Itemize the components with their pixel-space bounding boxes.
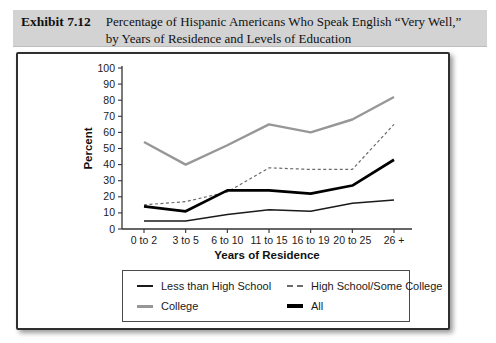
exhibit-title-line1: Percentage of Hispanic Americans Who Spe…: [106, 14, 462, 29]
chart-panel: 01020304050607080901000 to 23 to 56 to 1…: [16, 52, 450, 330]
y-tick-label: 100: [97, 62, 115, 74]
y-tick-label: 0: [109, 223, 115, 235]
x-tick-label: 0 to 2: [131, 234, 157, 246]
y-tick-label: 90: [103, 78, 115, 90]
page: Exhibit 7.12 Percentage of Hispanic Amer…: [0, 0, 496, 343]
y-tick-label: 10: [103, 206, 115, 218]
legend: Less than High SchoolHigh School/Some Co…: [122, 270, 410, 322]
y-tick-label: 40: [103, 158, 115, 170]
series-line-1: [144, 124, 394, 205]
legend-marker: [137, 285, 153, 287]
legend-label: College: [161, 300, 198, 312]
years-axis-label: Years of Residence: [214, 249, 319, 261]
x-tick-label: 16 to 19: [292, 234, 330, 246]
exhibit-title: Percentage of Hispanic Americans Who Spe…: [106, 14, 462, 47]
x-tick-label: 3 to 5: [173, 234, 199, 246]
legend-item: All: [287, 300, 442, 312]
exhibit-header: Exhibit 7.12 Percentage of Hispanic Amer…: [13, 10, 487, 47]
y-tick-label: 30: [103, 174, 115, 186]
legend-label: All: [311, 300, 323, 312]
y-tick-label: 60: [103, 126, 115, 138]
y-tick-label: 80: [103, 94, 115, 106]
x-tick-label: 6 to 10: [211, 234, 243, 246]
legend-label: High School/Some College: [311, 280, 442, 292]
x-tick-label: 20 to 25: [333, 234, 371, 246]
y-tick-label: 50: [103, 142, 115, 154]
legend-marker: [287, 304, 303, 308]
legend-item: Less than High School: [137, 280, 287, 292]
y-tick-label: 70: [103, 110, 115, 122]
series-line-2: [144, 97, 394, 165]
percent-axis-label: Percent: [82, 127, 94, 169]
x-tick-label: 11 to 15: [250, 234, 287, 246]
legend-marker: [287, 285, 303, 287]
legend-marker: [137, 305, 153, 308]
exhibit-title-line2: by Years of Residence and Levels of Educ…: [106, 31, 352, 46]
legend-item: College: [137, 300, 287, 312]
y-tick-label: 20: [103, 190, 115, 202]
legend-item: High School/Some College: [287, 280, 442, 292]
x-tick-label: 26 +: [384, 234, 405, 246]
exhibit-label: Exhibit 7.12: [21, 14, 91, 31]
legend-label: Less than High School: [161, 280, 271, 292]
